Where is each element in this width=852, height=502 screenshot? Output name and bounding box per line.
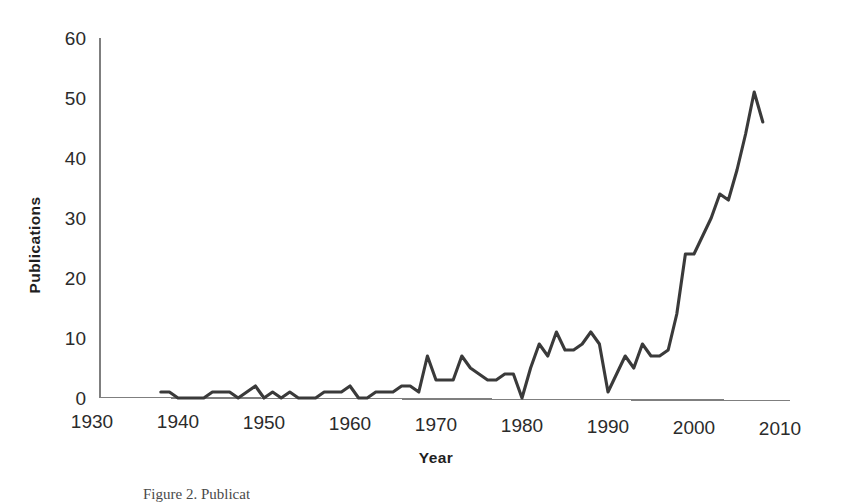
y-axis-tick-labels: 60 50 40 30 20 10 0 [65,28,86,409]
y-tick-label: 20 [65,268,86,289]
series-publications-line [161,92,763,398]
x-tick-label: 1930 [71,411,113,432]
x-tick-label: 1990 [587,416,629,437]
figure-container: 60 50 40 30 20 10 0 1930 1940 1950 1960 … [0,0,852,502]
y-tick-label: 10 [65,328,86,349]
y-axis-title: Publications [26,197,43,294]
x-tick-label: 1970 [415,414,457,435]
x-tick-label: 2010 [759,418,801,439]
x-tick-label: 1940 [157,411,199,432]
x-axis-tick-labels: 1930 1940 1950 1960 1970 1980 1990 2000 … [71,411,801,439]
y-tick-label: 60 [65,28,86,49]
x-tick-label: 1950 [243,412,285,433]
y-tick-label: 40 [65,148,86,169]
x-axis-title: Year [419,449,453,466]
x-tick-label: 1980 [501,415,543,436]
y-tick-label: 0 [75,388,86,409]
publications-line-chart: 60 50 40 30 20 10 0 1930 1940 1950 1960 … [0,0,852,502]
figure-caption: Figure 2. Publicat [143,486,250,502]
y-tick-label: 50 [65,88,86,109]
x-tick-label: 1960 [329,413,371,434]
y-tick-label: 30 [65,208,86,229]
x-tick-label: 2000 [673,417,715,438]
